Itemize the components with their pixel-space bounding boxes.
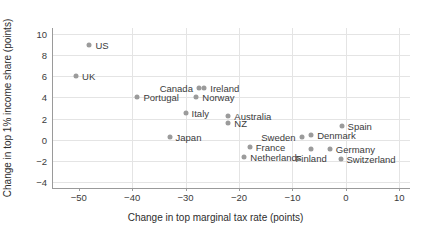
data-point-label: Japan xyxy=(176,131,202,142)
x-axis-title: Change in top marginal tax rate (points) xyxy=(0,212,431,223)
data-point-marker xyxy=(327,147,332,152)
data-point-marker xyxy=(242,155,247,160)
gridline-vertical xyxy=(132,28,133,188)
x-tick-label: 0 xyxy=(343,192,348,203)
gridline-vertical xyxy=(399,28,400,188)
data-point-marker xyxy=(167,134,172,139)
x-tick-label: −50 xyxy=(71,192,87,203)
x-tick-mark xyxy=(239,188,240,191)
data-point-marker xyxy=(247,144,252,149)
x-tick-mark xyxy=(79,188,80,191)
data-point-marker xyxy=(226,120,231,125)
x-tick-mark xyxy=(346,188,347,191)
x-tick-mark xyxy=(399,188,400,191)
data-point-label: NZ xyxy=(234,117,247,128)
data-point-marker xyxy=(202,86,207,91)
data-point-marker xyxy=(299,135,304,140)
gridline-vertical xyxy=(292,28,293,188)
data-point-label: UK xyxy=(82,71,95,82)
gridline-vertical xyxy=(186,28,187,188)
data-point-marker xyxy=(196,86,201,91)
data-point-marker xyxy=(87,42,92,47)
gridline-horizontal xyxy=(52,119,410,120)
data-point-marker xyxy=(194,95,199,100)
x-tick-label: −40 xyxy=(124,192,140,203)
data-point-label: Italy xyxy=(192,108,209,119)
y-tick-label: 2 xyxy=(42,113,52,124)
data-point-marker xyxy=(135,95,140,100)
x-tick-mark xyxy=(186,188,187,191)
y-axis-title: Change in top 1% income share (points) xyxy=(2,19,13,197)
x-tick-label: 10 xyxy=(394,192,405,203)
data-point-label: Norway xyxy=(202,92,234,103)
gridline-horizontal xyxy=(52,140,410,141)
scatter-chart-figure: Change in top 1% income share (points) −… xyxy=(0,0,431,247)
y-tick-label: 0 xyxy=(42,134,52,145)
gridline-vertical xyxy=(239,28,240,188)
data-point-label: Portugal xyxy=(143,92,178,103)
data-point-label: France xyxy=(256,141,286,152)
y-tick-label: −2 xyxy=(36,155,52,166)
data-point-marker xyxy=(226,114,231,119)
y-tick-label: 4 xyxy=(42,92,52,103)
x-tick-mark xyxy=(292,188,293,191)
x-axis-spine xyxy=(52,188,410,189)
gridline-horizontal xyxy=(52,55,410,56)
data-point-marker xyxy=(338,156,343,161)
data-point-marker xyxy=(309,133,314,138)
gridline-horizontal xyxy=(52,34,410,35)
y-tick-label: 6 xyxy=(42,71,52,82)
data-point-marker xyxy=(74,74,79,79)
gridline-horizontal xyxy=(52,182,410,183)
data-point-marker xyxy=(339,123,344,128)
x-tick-mark xyxy=(132,188,133,191)
plot-area: −50−40−30−20−10010−4−20246810 USUKCanada… xyxy=(52,28,410,188)
data-point-label: Denmark xyxy=(317,130,356,141)
y-tick-label: 10 xyxy=(36,29,52,40)
gridline-horizontal xyxy=(52,76,410,77)
x-tick-label: −30 xyxy=(178,192,194,203)
x-tick-label: −10 xyxy=(284,192,300,203)
y-axis-spine xyxy=(52,28,53,188)
data-point-marker xyxy=(309,147,314,152)
data-point-marker xyxy=(183,111,188,116)
y-tick-label: 8 xyxy=(42,50,52,61)
data-point-label: US xyxy=(95,39,108,50)
data-point-label: Netherlands xyxy=(250,152,301,163)
x-tick-label: −20 xyxy=(231,192,247,203)
data-point-label: Switzerland xyxy=(347,153,396,164)
y-tick-label: −4 xyxy=(36,176,52,187)
